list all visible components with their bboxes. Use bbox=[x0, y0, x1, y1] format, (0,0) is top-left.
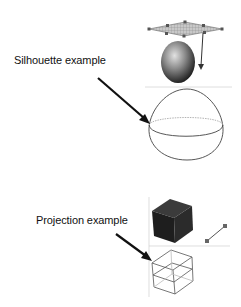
wireframe-egg-silhouette bbox=[149, 89, 223, 160]
light-direction-arrow bbox=[198, 33, 204, 70]
shaded-egg bbox=[161, 41, 195, 83]
light-segment bbox=[205, 224, 227, 243]
projection-label: Projection example bbox=[36, 214, 128, 226]
silhouette-label: Silhouette example bbox=[14, 54, 106, 66]
light-plane bbox=[148, 21, 224, 38]
wireframe-cube-projection bbox=[152, 250, 193, 294]
projection-arrow bbox=[116, 234, 152, 261]
shaded-cube bbox=[152, 199, 193, 243]
diagram-canvas bbox=[0, 0, 241, 307]
silhouette-arrow bbox=[98, 78, 150, 124]
